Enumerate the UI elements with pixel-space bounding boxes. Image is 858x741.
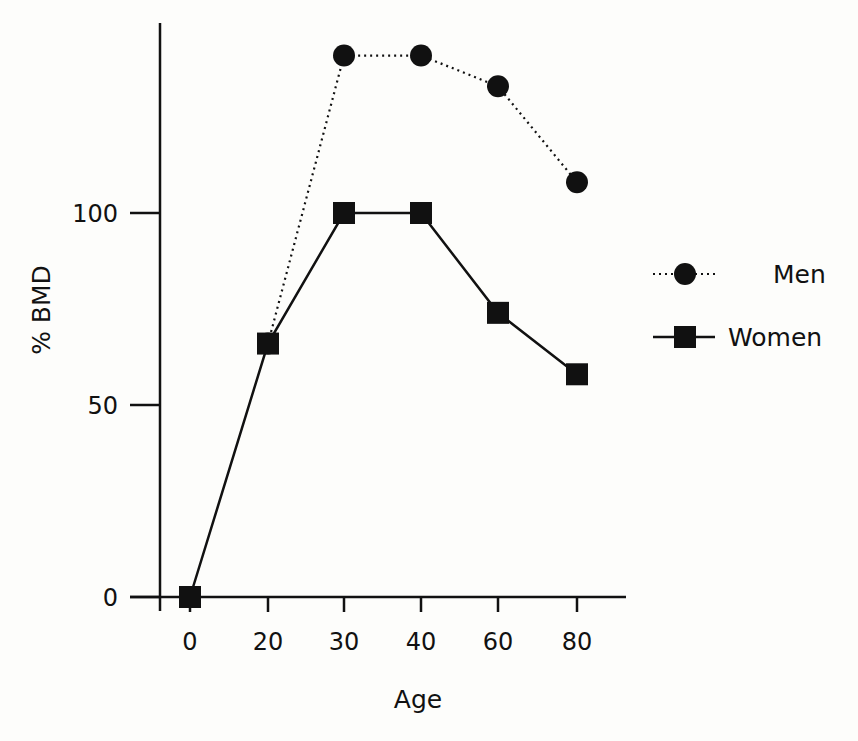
x-tick-label: 60	[483, 628, 514, 656]
y-ticks: 050100	[72, 200, 160, 612]
square-marker	[333, 202, 355, 224]
x-tick-label: 40	[406, 628, 437, 656]
x-axis-title: Age	[394, 685, 442, 714]
x-tick-label: 80	[562, 628, 593, 656]
y-tick-label: 100	[72, 200, 118, 228]
axes: 050100 02030406080 Age % BMD	[27, 23, 626, 714]
square-marker	[566, 363, 588, 385]
legend: Men Women	[653, 260, 826, 352]
legend-label-men: Men	[773, 260, 826, 289]
x-tick-label: 30	[329, 628, 360, 656]
y-axis-title: % BMD	[27, 265, 56, 355]
circle-marker-icon	[674, 263, 696, 285]
square-marker	[487, 302, 509, 324]
x-tick-label: 20	[253, 628, 284, 656]
square-marker	[257, 333, 279, 355]
y-tick-label: 0	[103, 584, 118, 612]
series-women	[179, 202, 588, 608]
series-layer	[179, 45, 588, 608]
y-tick-label: 50	[87, 392, 118, 420]
bmd-line-chart: 050100 02030406080 Age % BMD Men Women	[0, 0, 858, 741]
x-ticks: 02030406080	[182, 597, 592, 656]
legend-item-women: Women	[653, 323, 822, 352]
square-marker	[179, 586, 201, 608]
circle-marker	[410, 45, 432, 67]
legend-label-women: Women	[728, 323, 822, 352]
square-marker	[410, 202, 432, 224]
square-marker-icon	[674, 326, 696, 348]
legend-item-men: Men	[653, 260, 826, 289]
men-line	[268, 56, 577, 344]
series-men	[257, 45, 588, 355]
circle-marker	[566, 171, 588, 193]
x-tick-label: 0	[182, 628, 197, 656]
women-line	[190, 213, 577, 597]
circle-marker	[487, 75, 509, 97]
circle-marker	[333, 45, 355, 67]
